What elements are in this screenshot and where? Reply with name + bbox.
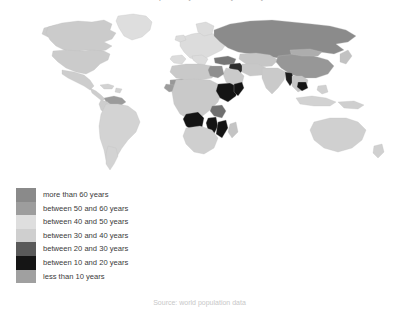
legend-item[interactable]: between 50 and 60 years <box>16 202 128 216</box>
legend-swatch-icon <box>16 242 36 256</box>
world-map-svg <box>0 6 399 171</box>
legend-item[interactable]: between 30 and 40 years <box>16 229 128 243</box>
legend-swatch-icon <box>16 188 36 202</box>
legend-swatch-icon <box>16 229 36 243</box>
legend-swatch-icon <box>16 256 36 270</box>
legend-item[interactable]: more than 60 years <box>16 188 128 202</box>
legend-item-label: between 30 and 40 years <box>43 229 128 243</box>
legend-swatch-icon <box>16 202 36 216</box>
legend-item[interactable]: less than 10 years <box>16 270 128 284</box>
legend-item-label: between 10 and 20 years <box>43 256 128 270</box>
legend-swatch-icon <box>16 215 36 229</box>
legend-item[interactable]: between 20 and 30 years <box>16 242 128 256</box>
legend-item-label: more than 60 years <box>43 188 108 202</box>
map-legend: more than 60 years between 50 and 60 yea… <box>16 188 128 283</box>
legend-item-label: less than 10 years <box>43 270 105 284</box>
legend-item[interactable]: between 10 and 20 years <box>16 256 128 270</box>
figure-title: Life expectancy at birth, by country <box>0 0 399 2</box>
legend-swatch-icon <box>16 270 36 284</box>
legend-item-label: between 50 and 60 years <box>43 202 128 216</box>
world-map <box>0 6 399 171</box>
legend-item-label: between 20 and 30 years <box>43 242 128 256</box>
legend-item[interactable]: between 40 and 50 years <box>16 215 128 229</box>
figure-caption: Source: world population data <box>0 299 399 310</box>
legend-item-label: between 40 and 50 years <box>43 215 128 229</box>
